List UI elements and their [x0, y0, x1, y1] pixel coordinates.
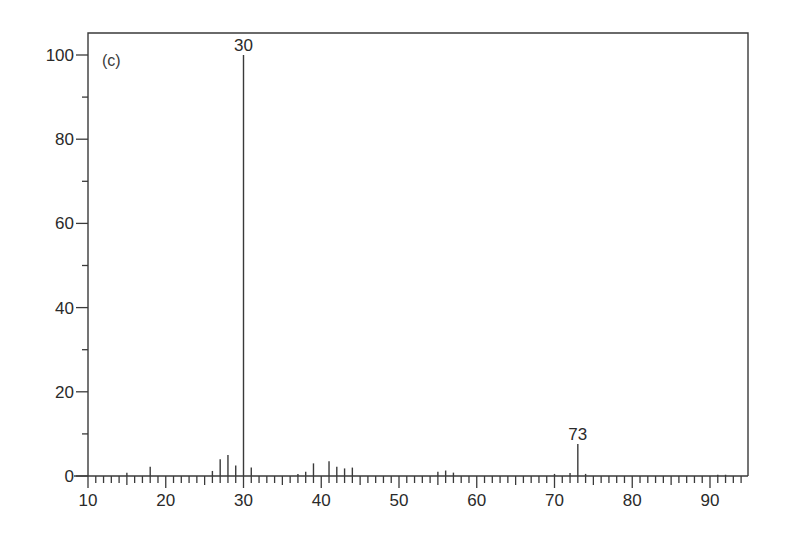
y-tick-label: 80: [55, 130, 74, 149]
plot-border: [88, 33, 748, 476]
x-tick-label: 90: [701, 491, 720, 510]
y-tick-label: 20: [55, 383, 74, 402]
y-tick-label: 100: [46, 46, 74, 65]
peak-label: 73: [568, 425, 587, 444]
plot-frame: [74, 33, 748, 476]
panel-label: (c): [102, 52, 121, 69]
x-tick-label: 30: [234, 491, 253, 510]
x-tick-label: 80: [623, 491, 642, 510]
y-tick-label: 60: [55, 214, 74, 233]
peak-series: [127, 55, 726, 476]
y-axis: 020406080100: [46, 46, 88, 486]
y-tick-label: 40: [55, 299, 74, 318]
x-tick-label: 20: [156, 491, 175, 510]
x-axis: 102030405060708090: [79, 476, 742, 510]
x-tick-label: 40: [312, 491, 331, 510]
x-tick-label: 50: [390, 491, 409, 510]
mass-spectrum-chart: 020406080100 102030405060708090 3073 (c): [0, 0, 789, 546]
peak-label: 30: [234, 36, 253, 55]
peak-annotations: 3073: [234, 36, 587, 444]
y-tick-label: 0: [65, 467, 74, 486]
x-tick-label: 70: [545, 491, 564, 510]
x-tick-label: 60: [467, 491, 486, 510]
x-tick-label: 10: [79, 491, 98, 510]
